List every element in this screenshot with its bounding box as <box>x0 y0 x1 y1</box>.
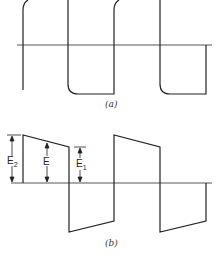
label-e2: E2 <box>7 155 18 168</box>
label-e: E <box>43 156 50 167</box>
e-arrowhead-down <box>45 177 49 182</box>
caption-b: (b) <box>105 238 118 248</box>
e-arrowhead-up <box>45 143 49 148</box>
panel-a-cycle-1 <box>68 0 119 94</box>
panel-a-waveform <box>17 0 212 94</box>
panel-b-waveform <box>11 135 212 232</box>
panel-a-cycle-2 <box>160 0 206 94</box>
panel-b-tilted-wave <box>23 135 206 232</box>
e1-arrowhead-up <box>78 148 82 153</box>
waveform-diagram <box>0 0 221 256</box>
caption-a: (a) <box>105 99 117 109</box>
e2-arrowhead-down <box>10 177 14 182</box>
e2-arrowhead-up <box>10 136 14 141</box>
e1-arrowhead-down <box>78 177 82 182</box>
label-e1: E1 <box>76 158 87 171</box>
